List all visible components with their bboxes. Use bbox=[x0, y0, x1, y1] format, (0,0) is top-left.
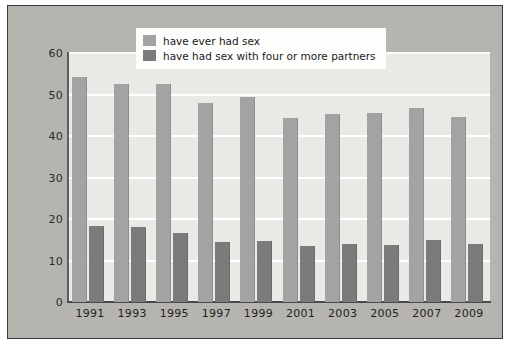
bar-ever-1999 bbox=[240, 97, 255, 302]
bar-ever-2009 bbox=[451, 117, 466, 302]
bar-ever-1997 bbox=[198, 103, 213, 302]
bar-four-2003 bbox=[342, 244, 357, 302]
legend-item-four-or-more: have had sex with four or more partners bbox=[143, 48, 376, 63]
gridline bbox=[69, 135, 490, 137]
bar-four-2001 bbox=[300, 246, 315, 302]
chart-figure: 0102030405060 19911993199519971999200120… bbox=[7, 5, 503, 339]
x-axis-tick-label: 1995 bbox=[153, 307, 195, 320]
gridline bbox=[69, 218, 490, 220]
x-axis-tick-label: 1997 bbox=[195, 307, 237, 320]
legend-item-ever: have ever had sex bbox=[143, 33, 376, 48]
bar-ever-2007 bbox=[409, 108, 424, 302]
legend-label-ever: have ever had sex bbox=[163, 35, 260, 47]
gridline bbox=[69, 177, 490, 179]
bar-four-1995 bbox=[173, 233, 188, 302]
x-axis-tick-label: 2007 bbox=[406, 307, 448, 320]
x-axis-tick-label: 2005 bbox=[364, 307, 406, 320]
x-axis-tick-label: 1993 bbox=[111, 307, 153, 320]
y-axis-tick-label: 0 bbox=[11, 296, 63, 309]
y-axis-tick-label: 20 bbox=[11, 213, 63, 226]
bar-ever-2005 bbox=[367, 113, 382, 302]
bar-ever-2003 bbox=[325, 114, 340, 302]
legend-swatch-icon-ever bbox=[143, 35, 156, 46]
bar-four-2009 bbox=[468, 244, 483, 302]
bar-ever-2001 bbox=[283, 118, 298, 302]
y-axis-tick-label: 10 bbox=[11, 254, 63, 267]
bar-ever-1993 bbox=[114, 84, 129, 302]
bar-four-2005 bbox=[384, 245, 399, 302]
bar-four-1997 bbox=[215, 242, 230, 302]
chart-legend: have ever had sex have had sex with four… bbox=[136, 28, 386, 69]
x-axis-tick-label: 2003 bbox=[322, 307, 364, 320]
bar-ever-1991 bbox=[72, 77, 87, 302]
x-axis-tick-label: 2001 bbox=[280, 307, 322, 320]
y-axis-tick-label: 40 bbox=[11, 130, 63, 143]
legend-swatch-icon-four-or-more bbox=[143, 50, 156, 61]
bar-four-1999 bbox=[257, 241, 272, 302]
legend-label-four-or-more: have had sex with four or more partners bbox=[163, 50, 376, 62]
x-axis-tick-label: 2009 bbox=[448, 307, 490, 320]
x-axis-tick-label: 1999 bbox=[237, 307, 279, 320]
x-axis-tick-label: 1991 bbox=[69, 307, 111, 320]
y-axis-tick-label: 50 bbox=[11, 88, 63, 101]
y-axis-tick-label: 30 bbox=[11, 171, 63, 184]
bar-four-2007 bbox=[426, 240, 441, 302]
bar-four-1993 bbox=[131, 227, 146, 302]
bar-ever-1995 bbox=[156, 84, 171, 302]
y-axis-tick-label: 60 bbox=[11, 47, 63, 60]
y-axis-tick-labels: 0102030405060 bbox=[8, 6, 63, 340]
bar-four-1991 bbox=[89, 226, 104, 302]
gridline bbox=[69, 94, 490, 96]
